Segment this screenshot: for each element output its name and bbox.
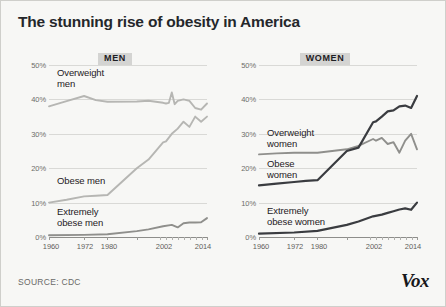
series-label-extremely-obese-men: Extremely obese men: [57, 206, 103, 228]
panel-women-heading: WOMEN: [229, 47, 421, 60]
panel-men-xaxis: 1960 1972 1980 2002 2014: [49, 237, 207, 257]
xtick-1972: [84, 237, 85, 240]
ytick-label-0: 0%: [245, 233, 256, 242]
xtick-1960: [259, 237, 260, 240]
line-overweight-men: [49, 93, 207, 110]
ytick-label-30: 30%: [241, 129, 256, 138]
xtick-minor-2: [376, 237, 377, 240]
xtick-minor-6: [400, 237, 401, 240]
panel-men: MEN 50% 40% 30% 20% 10% 0%: [19, 47, 211, 259]
xtick-minor-2: [166, 237, 167, 240]
ytick-label-40: 40%: [241, 95, 256, 104]
xtick-minor-1: [370, 237, 371, 240]
xtick-label-2014: 2014: [195, 242, 211, 251]
xtick-label-1980: 1980: [101, 242, 117, 251]
panel-women-badge: WOMEN: [300, 53, 351, 65]
xtick-1990: [137, 237, 138, 240]
xtick-minor-7: [406, 237, 407, 240]
panel-women: WOMEN 50% 40% 30% 20% 10% 0%: [229, 47, 421, 259]
series-label-obese-men: Obese men: [57, 175, 105, 186]
xtick-1980: [317, 237, 318, 240]
xtick-minor-7: [196, 237, 197, 240]
panel-women-plot: 50% 40% 30% 20% 10% 0% Overweight: [259, 65, 417, 237]
xtick-1960: [49, 237, 50, 240]
ytick-label-10: 10%: [241, 198, 256, 207]
ytick-label-30: 30%: [31, 129, 46, 138]
xtick-minor-4: [388, 237, 389, 240]
panel-men-plot: 50% 40% 30% 20% 10% 0% Overweight: [49, 65, 207, 237]
ytick-label-40: 40%: [31, 95, 46, 104]
ytick-label-50: 50%: [241, 61, 256, 70]
xtick-minor-6: [190, 237, 191, 240]
source-note: SOURCE: CDC: [18, 277, 81, 287]
xtick-label-1972: 1972: [287, 242, 303, 251]
page-title: The stunning rise of obesity in America: [18, 13, 300, 31]
xtick-2014: [207, 237, 208, 240]
xtick-label-2014: 2014: [405, 242, 421, 251]
chart-figure: The stunning rise of obesity in America …: [0, 0, 446, 307]
ytick-label-0: 0%: [35, 233, 46, 242]
panel-men-badge: MEN: [98, 53, 132, 65]
ytick-label-10: 10%: [31, 198, 46, 207]
ytick-label-20: 20%: [31, 164, 46, 173]
xtick-minor-8: [412, 237, 413, 240]
series-label-obese-women: Obese women: [267, 158, 297, 180]
xtick-2014: [417, 237, 418, 240]
xtick-label-1960: 1960: [253, 242, 269, 251]
series-label-overweight-women: Overweight women: [267, 127, 314, 149]
xtick-1990: [347, 237, 348, 240]
ytick-label-50: 50%: [31, 61, 46, 70]
xtick-1972: [294, 237, 295, 240]
series-label-overweight-men: Overweight men: [57, 67, 104, 89]
xtick-minor-3: [172, 237, 173, 240]
xtick-minor-4: [178, 237, 179, 240]
line-obese-men: [49, 117, 207, 203]
series-label-extremely-obese-women: Extremely obese women: [267, 205, 325, 227]
xtick-label-2002: 2002: [366, 242, 382, 251]
xtick-1980: [107, 237, 108, 240]
xtick-label-1980: 1980: [311, 242, 327, 251]
xtick-minor-3: [382, 237, 383, 240]
xtick-label-2002: 2002: [156, 242, 172, 251]
panel-women-xaxis: 1960 1972 1980 2002 2014: [259, 237, 417, 257]
xtick-label-1960: 1960: [43, 242, 59, 251]
xtick-label-1972: 1972: [77, 242, 93, 251]
xtick-minor-1: [160, 237, 161, 240]
xtick-minor-5: [184, 237, 185, 240]
panel-men-heading: MEN: [19, 47, 211, 60]
xtick-minor-5: [394, 237, 395, 240]
xtick-minor-8: [202, 237, 203, 240]
ytick-label-20: 20%: [241, 164, 256, 173]
vox-logo: Vox: [401, 270, 429, 292]
